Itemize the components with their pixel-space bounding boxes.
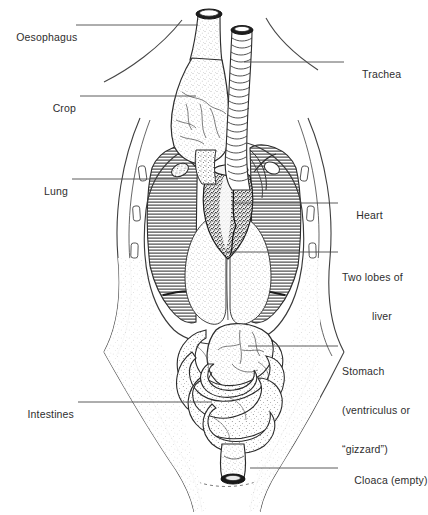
- label-liver: Two lobes of liver: [342, 245, 422, 349]
- crop-sac: [171, 58, 229, 164]
- label-stomach-line2: (ventriculus or: [342, 404, 424, 417]
- label-heart: Heart: [344, 196, 383, 235]
- rib: [131, 243, 139, 258]
- oesophagus-tube: [190, 16, 222, 62]
- label-lung: Lung: [4, 172, 68, 211]
- rib: [309, 243, 317, 258]
- rib: [300, 166, 309, 182]
- label-oesophagus-text: Oesophagus: [16, 31, 77, 43]
- label-liver-line1: Two lobes of: [342, 271, 422, 284]
- rib: [133, 206, 141, 221]
- cloaca-group: [221, 444, 246, 484]
- label-trachea: Trachea: [350, 55, 401, 94]
- label-crop-text: Crop: [53, 102, 76, 114]
- label-lung-text: Lung: [44, 185, 68, 197]
- label-intestines: Intestines: [4, 395, 74, 434]
- rib: [306, 206, 314, 221]
- label-cloaca: Cloaca (empty): [342, 461, 428, 500]
- label-stomach-line1: Stomach: [342, 365, 424, 378]
- cloaca-tube: [221, 444, 246, 478]
- label-liver-line2: liver: [342, 310, 422, 323]
- label-cloaca-text: Cloaca (empty): [354, 474, 427, 486]
- cloaca-lumen: [226, 475, 241, 480]
- label-oesophagus: Oesophagus: [4, 18, 72, 57]
- label-crop: Crop: [4, 89, 76, 128]
- trachea-lumen: [235, 26, 250, 31]
- neck-outline-left: [104, 20, 182, 82]
- label-heart-text: Heart: [356, 209, 382, 221]
- proventriculus-neck: [195, 150, 216, 184]
- oesophagus-lumen: [200, 10, 219, 16]
- label-intestines-text: Intestines: [28, 408, 74, 420]
- label-trachea-text: Trachea: [362, 68, 401, 80]
- label-stomach-line3: “gizzard”): [342, 443, 424, 456]
